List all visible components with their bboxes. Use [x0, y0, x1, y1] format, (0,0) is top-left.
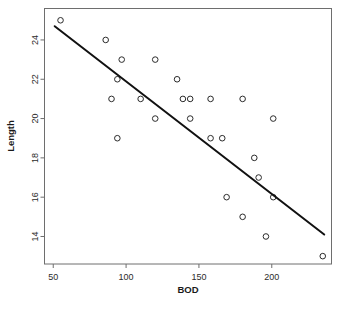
plot-canvas: 141618202224 50100150200 BOD Length	[0, 0, 344, 309]
x-tick-label: 100	[119, 272, 134, 282]
x-tick-label: 150	[191, 272, 206, 282]
x-tick-label: 50	[48, 272, 58, 282]
x-axis-title: BOD	[177, 284, 198, 295]
x-tick-label: 200	[264, 272, 279, 282]
y-tick-label: 14	[31, 231, 41, 241]
y-axis-title: Length	[5, 120, 16, 152]
scatter-plot-figure: 141618202224 50100150200 BOD Length	[0, 0, 344, 309]
y-tick-label: 18	[31, 153, 41, 163]
y-tick-label: 24	[31, 35, 41, 45]
figure-background	[0, 0, 344, 309]
y-tick-label: 22	[31, 74, 41, 84]
y-tick-label: 16	[31, 192, 41, 202]
y-tick-label: 20	[31, 114, 41, 124]
